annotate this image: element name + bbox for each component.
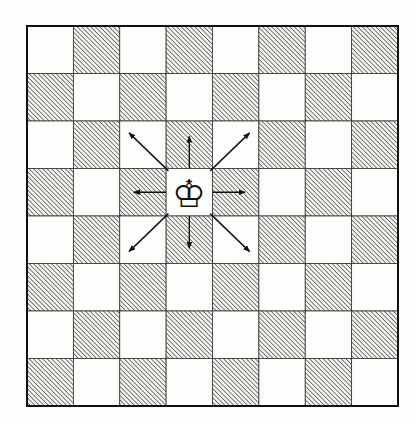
dark-square — [352, 311, 398, 359]
dark-square — [27, 359, 73, 407]
dark-square — [352, 26, 398, 74]
light-square — [352, 74, 398, 122]
light-square — [352, 169, 398, 217]
white-king-icon: ♔ — [172, 172, 206, 216]
light-square — [305, 311, 351, 359]
dark-square — [120, 74, 166, 122]
light-square — [305, 121, 351, 169]
dark-square — [305, 359, 351, 407]
light-square — [259, 359, 305, 407]
dark-square — [352, 121, 398, 169]
dark-square — [73, 26, 119, 74]
light-square — [305, 216, 351, 264]
dark-square — [27, 264, 73, 312]
dark-square — [213, 359, 259, 407]
light-square — [27, 26, 73, 74]
light-square — [166, 359, 212, 407]
dark-square — [305, 169, 351, 217]
dark-square — [305, 264, 351, 312]
light-square — [259, 74, 305, 122]
dark-square — [73, 311, 119, 359]
chess-diagram: ♔ — [0, 0, 417, 423]
dark-square — [259, 216, 305, 264]
light-square — [305, 26, 351, 74]
dark-square — [213, 264, 259, 312]
light-square — [120, 26, 166, 74]
light-square — [352, 264, 398, 312]
dark-square — [213, 74, 259, 122]
light-square — [73, 74, 119, 122]
dark-square — [120, 264, 166, 312]
dark-square — [259, 26, 305, 74]
light-square — [213, 26, 259, 74]
light-square — [213, 311, 259, 359]
light-square — [259, 169, 305, 217]
light-square — [73, 359, 119, 407]
dark-square — [259, 311, 305, 359]
light-square — [166, 74, 212, 122]
light-square — [73, 169, 119, 217]
dark-square — [305, 74, 351, 122]
light-square — [27, 216, 73, 264]
dark-square — [352, 216, 398, 264]
light-square — [27, 121, 73, 169]
dark-square — [259, 121, 305, 169]
dark-square — [120, 359, 166, 407]
dark-square — [73, 216, 119, 264]
light-square — [352, 359, 398, 407]
dark-square — [27, 74, 73, 122]
dark-square — [166, 311, 212, 359]
light-square — [73, 264, 119, 312]
dark-square — [73, 121, 119, 169]
light-square — [120, 311, 166, 359]
dark-square — [27, 169, 73, 217]
dark-square — [166, 26, 212, 74]
light-square — [27, 311, 73, 359]
light-square — [166, 264, 212, 312]
light-square — [259, 264, 305, 312]
